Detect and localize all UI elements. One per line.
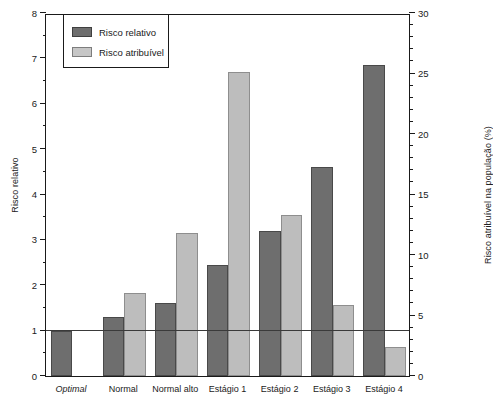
- plot-area: 012345678 051015202530: [45, 14, 410, 377]
- y-axis-left-tick-label: 0: [13, 372, 37, 382]
- y-axis-left-tick-label: 7: [13, 54, 37, 64]
- y-axis-right-minor-tick: [409, 85, 413, 86]
- y-axis-left-minor-tick: [43, 35, 47, 36]
- y-axis-left-major-tick: [40, 239, 46, 240]
- y-axis-right-minor-tick: [409, 121, 413, 122]
- y-axis-right-major-tick: [409, 12, 415, 13]
- y-axis-right-minor-tick: [409, 157, 413, 158]
- bar-risco-atribuivel: [385, 347, 407, 376]
- bar-group: [255, 15, 307, 376]
- bar-group: [150, 15, 202, 376]
- bar-risco-atribuivel: [281, 215, 303, 376]
- y-axis-left-minor-tick: [43, 216, 47, 217]
- y-axis-right-minor-tick: [409, 97, 413, 98]
- y-axis-left-major-tick: [40, 194, 46, 195]
- y-axis-right-minor-tick: [409, 351, 413, 352]
- bar-risco-atribuivel: [333, 305, 355, 376]
- x-axis-tick-label: Estágio 4: [358, 384, 410, 394]
- y-axis-right-minor-tick: [409, 327, 413, 328]
- y-axis-left-minor-tick: [43, 352, 47, 353]
- y-axis-left-major-tick: [40, 103, 46, 104]
- y-axis-left-tick-label: 3: [13, 235, 37, 245]
- y-axis-right-tick-label: 10: [418, 251, 442, 261]
- y-axis-left-tick-label: 2: [13, 281, 37, 291]
- bar-risco-atribuivel: [176, 233, 198, 376]
- y-axis-right-tick-label: 25: [418, 69, 442, 79]
- legend-item-risco-atribuivel: Risco atribuível: [72, 42, 162, 62]
- bar-risco-relativo: [51, 331, 73, 376]
- y-axis-left-minor-tick: [43, 171, 47, 172]
- y-axis-left-major-tick: [40, 284, 46, 285]
- y-axis-right-minor-tick: [409, 36, 413, 37]
- y-axis-right-minor-tick: [409, 218, 413, 219]
- legend-item-label: Risco relativo: [99, 27, 156, 38]
- x-axis-tick-label: Estágio 2: [254, 384, 306, 394]
- reference-line: [46, 330, 409, 331]
- y-axis-left-major-tick: [40, 12, 46, 13]
- legend-swatch-icon: [72, 47, 92, 57]
- y-axis-right-minor-tick: [409, 24, 413, 25]
- y-axis-right-tick-label: 30: [418, 9, 442, 19]
- y-axis-left-tick-label: 4: [13, 190, 37, 200]
- y-axis-right-minor-tick: [409, 230, 413, 231]
- chart-legend: Risco relativo Risco atribuível: [63, 14, 169, 68]
- y-axis-left-minor-tick: [43, 80, 47, 81]
- x-axis-tick-label: Optimal: [45, 384, 97, 394]
- legend-item-label: Risco atribuível: [99, 47, 164, 58]
- y-axis-right-major-tick: [409, 73, 415, 74]
- y-axis-right-tick-label: 20: [418, 130, 442, 140]
- y-axis-right-minor-tick: [409, 302, 413, 303]
- y-axis-left-major-tick: [40, 57, 46, 58]
- y-axis-left-title: Risco relativo: [10, 125, 20, 245]
- bar-group: [307, 15, 359, 376]
- y-axis-right-minor-tick: [409, 363, 413, 364]
- y-axis-right-minor-tick: [409, 109, 413, 110]
- y-axis-right-minor-tick: [409, 266, 413, 267]
- legend-swatch-icon: [72, 27, 92, 37]
- y-axis-left-minor-tick: [43, 262, 47, 263]
- y-axis-right-minor-tick: [409, 339, 413, 340]
- y-axis-right-major-tick: [409, 315, 415, 316]
- bar-group: [98, 15, 150, 376]
- y-axis-right-major-tick: [409, 194, 415, 195]
- y-axis-left-major-tick: [40, 330, 46, 331]
- y-axis-left-tick-label: 6: [13, 99, 37, 109]
- legend-item-risco-relativo: Risco relativo: [72, 22, 162, 42]
- bar-group: [46, 15, 98, 376]
- y-axis-right-minor-tick: [409, 169, 413, 170]
- bar-risco-relativo: [155, 303, 177, 376]
- y-axis-left-tick-label: 5: [13, 145, 37, 155]
- y-axis-right-minor-tick: [409, 206, 413, 207]
- x-axis-tick-label: Normal alto: [149, 384, 201, 394]
- y-axis-right-tick-label: 15: [418, 190, 442, 200]
- y-axis-right-major-tick: [409, 133, 415, 134]
- y-axis-right-minor-tick: [409, 290, 413, 291]
- bar-risco-atribuivel: [124, 293, 146, 376]
- y-axis-left-minor-tick: [43, 307, 47, 308]
- bar-group: [202, 15, 254, 376]
- bar-risco-relativo: [207, 265, 229, 376]
- x-axis-tick-label: Estágio 1: [201, 384, 253, 394]
- y-axis-right-minor-tick: [409, 242, 413, 243]
- y-axis-left-tick-label: 8: [13, 9, 37, 19]
- y-axis-right-minor-tick: [409, 60, 413, 61]
- bar-group: [359, 15, 411, 376]
- y-axis-left-minor-tick: [43, 125, 47, 126]
- y-axis-right-tick-label: 0: [418, 372, 442, 382]
- y-axis-left-major-tick: [40, 375, 46, 376]
- y-axis-right-tick-label: 5: [418, 311, 442, 321]
- bar-risco-relativo: [311, 167, 333, 376]
- bars-layer: [46, 15, 409, 376]
- y-axis-right-major-tick: [409, 375, 415, 376]
- x-axis-tick-label: Estágio 3: [306, 384, 358, 394]
- y-axis-left-tick-label: 1: [13, 326, 37, 336]
- y-axis-right-minor-tick: [409, 145, 413, 146]
- x-axis-tick-label: Normal: [97, 384, 149, 394]
- y-axis-right-title: Risco atribuível na população (%): [483, 110, 493, 280]
- y-axis-right-minor-tick: [409, 278, 413, 279]
- bar-risco-relativo: [103, 317, 125, 376]
- y-axis-right-major-tick: [409, 254, 415, 255]
- y-axis-right-minor-tick: [409, 181, 413, 182]
- y-axis-right-minor-tick: [409, 48, 413, 49]
